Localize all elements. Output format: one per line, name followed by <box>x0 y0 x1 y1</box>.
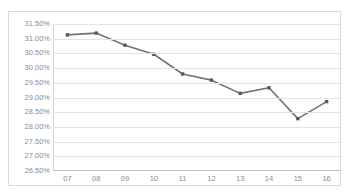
y-axis-tick-label: 30.00% <box>10 64 50 72</box>
x-axis-tick-label: 13 <box>228 174 252 184</box>
y-axis-tick-label: 31.00% <box>10 35 50 43</box>
y-axis-tick-label: 28.00% <box>10 123 50 131</box>
data-point-marker <box>239 92 242 95</box>
gridline <box>53 83 341 84</box>
data-point-marker <box>267 86 270 89</box>
gridline <box>53 98 341 99</box>
x-axis-tick-label: 09 <box>113 174 137 184</box>
gridline <box>53 24 341 25</box>
data-point-marker <box>123 43 126 46</box>
gridline <box>53 112 341 113</box>
x-axis-tick-label: 12 <box>199 174 223 184</box>
gridline <box>53 142 341 143</box>
gridline <box>53 127 341 128</box>
chart-container: 31.50%31.00%30.50%30.00%29.50%29.00%28.5… <box>0 0 349 192</box>
y-axis-tick-label: 27.00% <box>10 152 50 160</box>
plot-area <box>53 24 341 171</box>
y-axis-labels: 31.50%31.00%30.50%30.00%29.50%29.00%28.5… <box>9 24 50 171</box>
y-axis-tick-label: 26.50% <box>10 167 50 175</box>
x-axis-tick-label: 16 <box>315 174 339 184</box>
y-axis-tick-label: 27.50% <box>10 138 50 146</box>
data-point-marker <box>296 117 299 120</box>
y-axis-tick-label: 29.00% <box>10 94 50 102</box>
data-point-marker <box>66 33 69 36</box>
data-point-marker <box>210 78 213 81</box>
data-point-marker <box>325 100 328 103</box>
y-axis-tick-label: 28.50% <box>10 108 50 116</box>
chart-frame: 31.50%31.00%30.50%30.00%29.50%29.00%28.5… <box>8 11 341 186</box>
gridline <box>53 53 341 54</box>
x-axis-tick-label: 10 <box>142 174 166 184</box>
gridline <box>53 156 341 157</box>
y-axis-tick-label: 30.50% <box>10 49 50 57</box>
y-axis-tick-label: 29.50% <box>10 79 50 87</box>
y-axis-tick-label: 31.50% <box>10 20 50 28</box>
series-line <box>67 33 326 119</box>
data-point-marker <box>181 72 184 75</box>
x-axis-labels: 07080910111213141516 <box>53 174 341 188</box>
x-axis-tick-label: 11 <box>171 174 195 184</box>
x-axis-tick-label: 15 <box>286 174 310 184</box>
gridline <box>53 39 341 40</box>
x-axis-tick-label: 14 <box>257 174 281 184</box>
gridline <box>53 68 341 69</box>
chart-title <box>16 0 216 6</box>
x-axis-tick-label: 07 <box>55 174 79 184</box>
data-point-marker <box>95 31 98 34</box>
x-axis-tick-label: 08 <box>84 174 108 184</box>
